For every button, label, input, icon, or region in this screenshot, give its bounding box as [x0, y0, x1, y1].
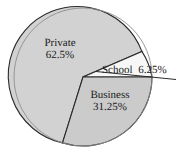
pie-label-business: Business 31.25% — [80, 90, 140, 113]
pie-label-private-value: 62.5% — [32, 50, 88, 62]
pie-label-business-name: Business — [80, 90, 140, 102]
pie-label-business-value: 31.25% — [80, 102, 140, 114]
pie-label-school: School 6.25% — [102, 65, 178, 77]
pie-label-private-name: Private — [32, 38, 88, 50]
pie-label-private: Private 62.5% — [32, 38, 88, 61]
pie-chart-figure: Private 62.5% Business 31.25% School 6.2… — [0, 0, 179, 151]
pie-label-school-value: 6.25% — [138, 64, 166, 76]
pie-label-school-name: School — [102, 64, 133, 76]
